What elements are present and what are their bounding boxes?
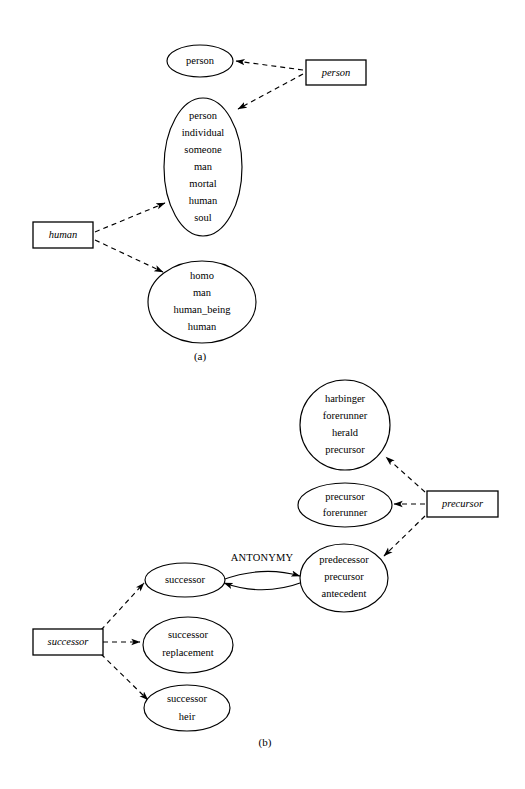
synset-word: man [193,287,212,298]
edge-precursor-to-synset-harbinger [386,457,425,492]
synset-word: precursor [324,571,364,582]
edge-human-to-synset-person-2 [95,203,165,232]
synset-node-successor-replacement[interactable] [143,617,233,673]
synset-word: person [189,110,218,121]
synset-word: harbinger [325,393,366,404]
synset-word: forerunner [323,507,368,518]
synset-word: man [194,161,213,172]
synset-node-successor-heir[interactable] [144,685,230,731]
synset-word: forerunner [323,410,368,421]
edge-successor-to-synset-successor [101,583,144,630]
synset-word: person [186,55,215,66]
edge-person-to-synset-person-1 [236,61,303,70]
synset-word: someone [184,144,222,155]
synset-word: homo [190,270,214,281]
synset-word: heir [179,711,196,722]
synset-word: human_being [173,304,231,315]
figure-canvas: person person individual someone man mor… [0,0,525,789]
word-node-label: successor [48,636,90,647]
synset-word: successor [165,574,206,585]
synset-node-precursor[interactable] [298,483,392,527]
synset-word: human [189,195,218,206]
synset-word: mortal [189,178,216,189]
synset-word: human [188,321,217,332]
edge-antonymy-backward [224,582,303,590]
word-node-label: human [49,229,78,240]
edge-human-to-synset-homo [95,240,163,272]
panel-a-caption: (a) [194,350,207,363]
synset-word: predecessor [319,554,369,565]
edge-successor-to-synset-successor-heir [101,654,148,700]
word-node-label: precursor [441,498,484,509]
synset-word: precursor [325,444,365,455]
edge-antonymy-label: ANTONYMY [231,552,294,563]
synset-word: successor [167,693,208,704]
word-node-label: person [321,67,351,78]
synset-word: replacement [162,647,213,658]
edge-precursor-to-synset-predecessor [384,516,425,556]
synset-word: individual [182,127,225,138]
synset-word: successor [168,629,209,640]
panel-b-caption: (b) [259,736,272,749]
edge-person-to-synset-person-2 [238,74,303,109]
synset-word: antecedent [322,588,367,599]
edge-antonymy-forward [222,571,300,580]
synset-word: soul [194,212,212,223]
figure-root: person person individual someone man mor… [0,0,525,789]
synset-word: herald [332,427,359,438]
synset-word: precursor [325,491,365,502]
